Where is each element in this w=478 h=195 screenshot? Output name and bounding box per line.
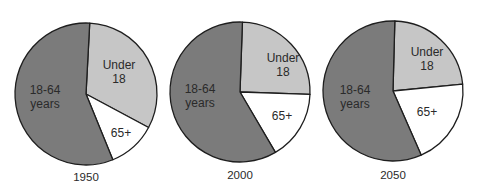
label-65-plus: 65+ — [272, 109, 292, 123]
label-18-64: 18-64 — [340, 83, 371, 97]
population-age-pie-charts: Under 18 18-64 years 65+ 1950 Under 18 1… — [0, 0, 478, 195]
label-under-18-line2: 18 — [420, 59, 434, 73]
label-65-plus: 65+ — [417, 105, 437, 119]
label-65-plus: 65+ — [111, 126, 131, 140]
pie-2000: Under 18 18-64 years 65+ 2000 — [170, 22, 310, 181]
label-18-64-line2: years — [30, 97, 59, 111]
label-18-64: 18-64 — [30, 83, 61, 97]
label-18-64-line2: years — [340, 97, 369, 111]
pie-2050: Under 18 18-64 years 65+ 2050 — [323, 21, 463, 181]
pie-1950: Under 18 18-64 years 65+ 1950 — [15, 23, 157, 183]
label-under-18: Under — [267, 51, 300, 65]
label-under-18-line2: 18 — [276, 65, 290, 79]
label-under-18: Under — [411, 45, 444, 59]
year-label-2000: 2000 — [227, 169, 253, 181]
year-label-2050: 2050 — [380, 169, 406, 181]
label-under-18-line2: 18 — [112, 72, 126, 86]
label-under-18: Under — [103, 58, 136, 72]
year-label-1950: 1950 — [73, 171, 99, 183]
label-18-64: 18-64 — [185, 82, 216, 96]
label-18-64-line2: years — [185, 96, 214, 110]
